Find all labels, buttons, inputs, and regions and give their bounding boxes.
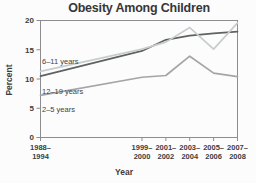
plot-area: 051015201988–19941999–20002001–20022003–… bbox=[0, 0, 256, 183]
y-tick-label: 20 bbox=[25, 16, 34, 25]
series-label-6–11-years: 6–11 years bbox=[42, 57, 79, 66]
series-label-2–5-years: 2–5 years bbox=[42, 105, 75, 114]
plot-border bbox=[41, 21, 238, 138]
y-tick-label: 15 bbox=[25, 46, 34, 55]
y-tick-label: 0 bbox=[30, 133, 35, 142]
x-tick-label: 2005–2006 bbox=[203, 143, 224, 161]
series-label-12–19-years: 12–19 years bbox=[42, 87, 84, 96]
obesity-line-chart: Obesity Among Children Percent 051015201… bbox=[0, 0, 256, 183]
x-tick-label: 2001–2002 bbox=[155, 143, 176, 161]
x-tick-label: 1999–2000 bbox=[132, 143, 153, 161]
y-tick-label: 5 bbox=[30, 104, 35, 113]
x-tick-label: 1988–1994 bbox=[30, 143, 51, 161]
x-axis-title: Year bbox=[115, 167, 133, 177]
x-tick-label: 2007–2008 bbox=[227, 143, 248, 161]
y-tick-label: 10 bbox=[25, 75, 34, 84]
x-tick-label: 2003–2004 bbox=[179, 143, 200, 161]
